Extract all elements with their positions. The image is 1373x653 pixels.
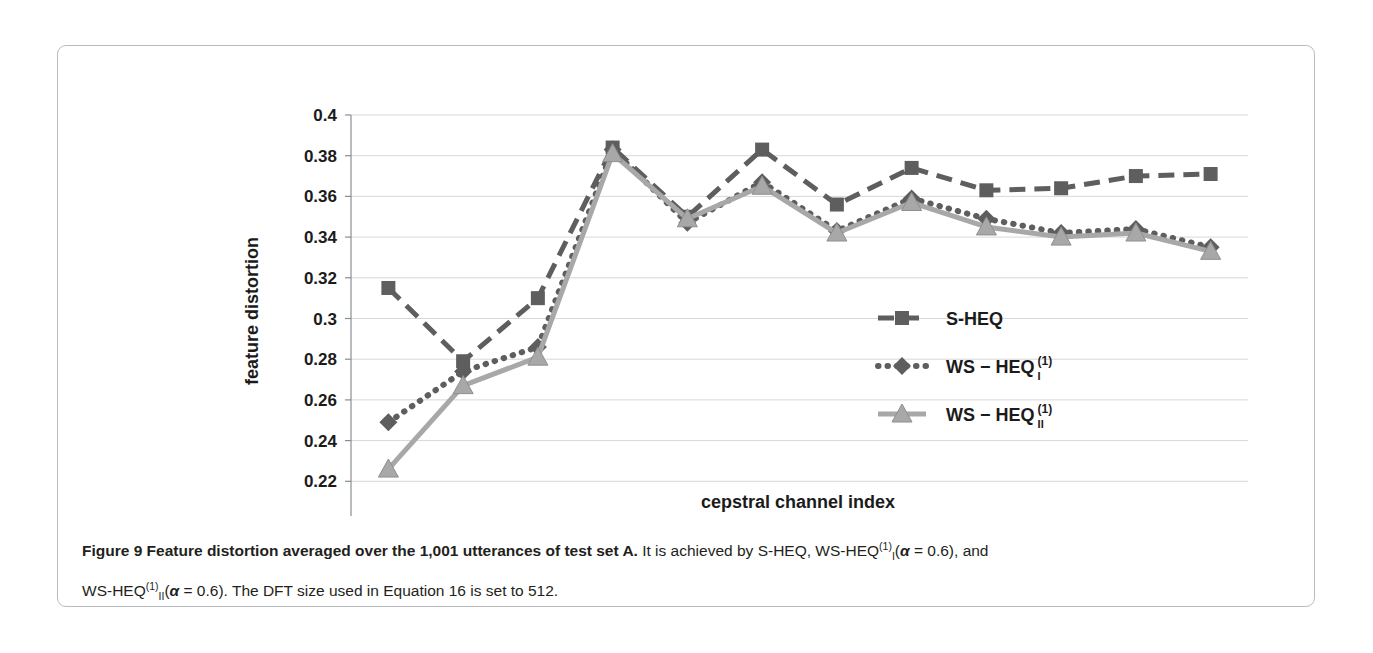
y-axis-tick-label: 0.3 [313,310,337,329]
data-point-marker-square [531,291,545,305]
caption-alpha-1: α [900,542,910,559]
data-point-marker-square [979,183,993,197]
y-axis-tick-label: 0.22 [304,472,337,491]
data-point-marker-square [1054,181,1068,195]
chart-axes [351,115,1248,516]
y-axis-tick-label: 0.4 [313,106,337,125]
y-axis-tick-label: 0.24 [304,432,338,451]
series-line [388,148,1210,362]
caption-rest-3: = 0.6), and [910,542,989,559]
caption-line2-alpha: α [170,582,180,599]
series-3 [378,144,1220,477]
series-line [388,150,1210,423]
chart-plot-area: 0.20.220.240.260.280.30.320.340.360.380.… [58,46,1316,516]
figure-card: 0.20.220.240.260.280.30.320.340.360.380.… [57,45,1315,607]
chart-gridlines [351,115,1248,516]
legend-label: WS − HEQ [946,405,1035,425]
caption-line2-rest: = 0.6). The DFT size used in Equation 16… [179,582,558,599]
caption-line2-prefix: WS-HEQ [82,582,146,599]
figure-number: Figure 9 [82,542,142,559]
legend-subscript: II [1038,418,1044,430]
feature-distortion-line-chart: 0.20.220.240.260.280.30.320.340.360.380.… [58,46,1316,516]
figure-caption: Figure 9 Feature distortion averaged ove… [82,531,1297,612]
legend-label: S-HEQ [946,309,1003,329]
data-point-marker-square [1204,167,1218,181]
y-axis-tick-label: 0.2 [313,513,337,516]
y-axis-tick-labels: 0.20.220.240.260.280.30.320.340.360.380.… [304,106,351,516]
x-axis-title: cepstral channel index [701,492,895,512]
y-axis-tick-label: 0.26 [304,391,337,410]
data-point-marker-square [895,311,909,325]
legend-subscript: I [1038,370,1041,382]
y-axis-tick-label: 0.36 [304,187,337,206]
legend-label: WS − HEQ [946,357,1035,377]
data-point-marker-square [381,281,395,295]
series-1 [381,141,1217,369]
y-axis-tick-label: 0.32 [304,269,337,288]
caption-bold-text: Feature distortion averaged over the 1,0… [147,542,638,559]
legend-item-2[interactable]: WS − HEQ(1)I [878,354,1052,382]
y-axis-tick-label: 0.34 [304,228,338,247]
legend-superscript: (1) [1038,402,1053,416]
data-point-marker-square [755,143,769,157]
y-axis-title: feature distortion [242,237,262,385]
data-point-marker-square [1129,169,1143,183]
series-line [388,154,1210,469]
caption-line2-sup: (1) [146,580,159,592]
data-point-marker-square [905,161,919,175]
data-point-marker-square [830,198,844,212]
y-axis-tick-label: 0.38 [304,147,337,166]
chart-legend: S-HEQWS − HEQ(1)IWS − HEQ(1)II [878,309,1052,430]
y-axis-tick-label: 0.28 [304,350,337,369]
chart-series-group [378,141,1220,478]
legend-item-3[interactable]: WS − HEQ(1)II [878,402,1052,430]
caption-sup-1: (1) [879,540,892,552]
caption-rest-1: It is achieved by S-HEQ, WS-HEQ [638,542,879,559]
legend-superscript: (1) [1038,354,1053,368]
